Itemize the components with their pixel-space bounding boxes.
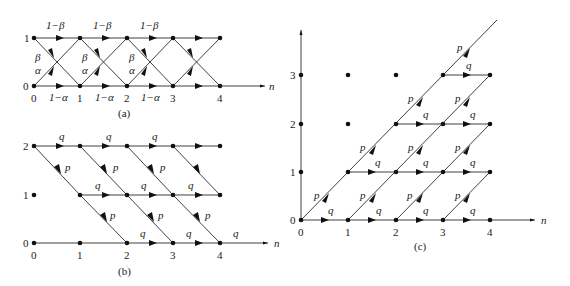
- edge-label-q: q: [470, 156, 476, 168]
- edge-label-q: q: [376, 204, 382, 216]
- panel-caption-b: (b): [118, 265, 131, 278]
- edge-label-p: p: [454, 92, 461, 104]
- edge-label-p: p: [454, 141, 461, 153]
- edge-label-p: p: [204, 209, 211, 221]
- time-label-0: 0: [31, 249, 37, 261]
- time-label-3: 3: [170, 249, 176, 261]
- edge-label-p: p: [109, 209, 116, 221]
- panel-c: 3 2 1 0 0 1 2 3 4 n q q q q q q q q q q …: [290, 20, 547, 253]
- axis-label-n: n: [269, 80, 275, 92]
- time-label-0: 0: [31, 92, 37, 104]
- edge-label-q: q: [188, 179, 194, 191]
- panel-caption-c: (c): [414, 240, 427, 253]
- panel-a: 1 0 0 1 2 3 4 n 1−β 1−β 1−β 1−α 1−α 1−α …: [23, 19, 275, 120]
- panel-b-nodes: [32, 144, 223, 246]
- edge-label-q: q: [466, 59, 472, 71]
- panel-caption-a: (a): [118, 107, 131, 120]
- edge-label-p: p: [359, 141, 366, 153]
- edge-label-p: p: [112, 161, 119, 173]
- state-label-0: 0: [290, 214, 296, 226]
- time-label-4: 4: [217, 92, 223, 104]
- panel-a-edges: [34, 38, 265, 86]
- edge-label-p: p: [159, 161, 166, 173]
- axis-label-n: n: [274, 237, 280, 249]
- edge-label-p: p: [359, 189, 366, 201]
- edge-label-q: q: [470, 108, 476, 120]
- state-label-0: 0: [23, 237, 29, 249]
- edge-label-up: α: [129, 64, 135, 76]
- markov-chain-figure: 1 0 0 1 2 3 4 n 1−β 1−β 1−β 1−α 1−α 1−α …: [0, 0, 570, 286]
- state-label-3: 3: [290, 69, 296, 81]
- edge-label-top: 1−β: [140, 19, 159, 31]
- state-label-1: 1: [23, 189, 29, 201]
- edge-label-p: p: [407, 92, 414, 104]
- edge-label-q: q: [423, 204, 429, 216]
- edge-label-p: p: [406, 189, 413, 201]
- edge-label-q: q: [152, 130, 158, 142]
- edge-label-bottom: 1−α: [49, 91, 68, 103]
- axis-label-n: n: [541, 214, 547, 226]
- edge-label-q: q: [140, 227, 146, 239]
- panel-a-arrowheads: [48, 35, 203, 89]
- edge-label-top: 1−β: [93, 19, 112, 31]
- edge-label-p: p: [454, 189, 461, 201]
- state-label-2: 2: [23, 140, 29, 152]
- edge-label-q: q: [233, 227, 239, 239]
- panel-b: 2 1 0 0 1 2 3 4 n q q q q q q q q q p p …: [23, 130, 280, 278]
- time-label-0: 0: [298, 226, 304, 238]
- edge-label-p: p: [313, 189, 320, 201]
- state-label-0: 0: [23, 80, 29, 92]
- state-label-2: 2: [290, 118, 296, 130]
- edge-label-p: p: [157, 209, 164, 221]
- panel-c-edges: [301, 20, 497, 220]
- edge-label-down: β: [81, 51, 88, 63]
- time-label-1: 1: [345, 226, 351, 238]
- time-label-3: 3: [170, 92, 176, 104]
- time-label-1: 1: [77, 249, 83, 261]
- edge-label-up: α: [82, 64, 88, 76]
- edge-label-q: q: [375, 156, 381, 168]
- edge-label-q: q: [95, 179, 101, 191]
- edge-label-down: β: [34, 51, 41, 63]
- edge-label-top: 1−β: [46, 19, 65, 31]
- state-label-1: 1: [290, 166, 296, 178]
- edge-label-p: p: [407, 141, 414, 153]
- time-label-4: 4: [217, 249, 223, 261]
- edge-label-q: q: [423, 108, 429, 120]
- panel-a-nodes: [32, 36, 223, 89]
- edge-label-p: p: [456, 41, 463, 53]
- edge-label-up: α: [35, 64, 41, 76]
- time-label-2: 2: [124, 92, 130, 104]
- state-label-1: 1: [24, 32, 30, 44]
- edge-label-q: q: [470, 204, 476, 216]
- edge-label-q: q: [423, 156, 429, 168]
- time-label-4: 4: [487, 226, 493, 238]
- edge-label-q: q: [59, 130, 65, 142]
- edge-label-p: p: [64, 161, 71, 173]
- edge-label-down: β: [128, 51, 135, 63]
- time-label-2: 2: [393, 226, 399, 238]
- edge-label-q: q: [328, 204, 334, 216]
- edge-label-bottom: 1−α: [141, 91, 160, 103]
- time-label-1: 1: [77, 92, 83, 104]
- time-label-3: 3: [440, 226, 446, 238]
- edge-label-bottom: 1−α: [95, 91, 114, 103]
- time-label-2: 2: [124, 249, 130, 261]
- edge-label-q: q: [141, 179, 147, 191]
- edge-label-q: q: [186, 227, 192, 239]
- edge-label-q: q: [106, 130, 112, 142]
